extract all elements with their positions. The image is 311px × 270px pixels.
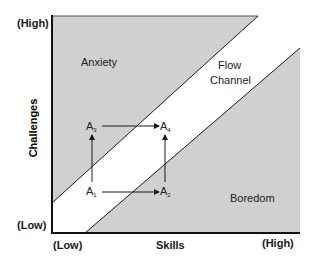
point-a1: A1	[86, 186, 97, 198]
channel-label: Channel	[210, 75, 251, 86]
y-axis-title: Challenges	[27, 99, 39, 158]
x-axis-low-label: (Low)	[53, 240, 82, 251]
y-axis-low-label: (Low)	[17, 220, 46, 231]
point-a3: A3	[86, 121, 97, 133]
point-a4: A4	[160, 121, 171, 133]
point-a2: A2	[160, 186, 171, 198]
boredom-label: Boredom	[230, 193, 275, 204]
x-axis-title: Skills	[156, 240, 185, 251]
anxiety-label: Anxiety	[81, 57, 117, 68]
flow-label: Flow	[218, 60, 241, 71]
flow-diagram-canvas	[0, 0, 311, 270]
y-axis-high-label: (High)	[17, 18, 49, 29]
x-axis-high-label: (High)	[262, 238, 294, 249]
